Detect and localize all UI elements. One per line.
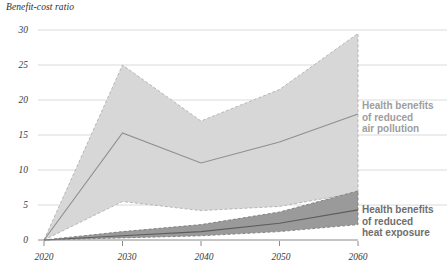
y-tick-label-20: 20 — [4, 95, 28, 105]
y-tick-label-5: 5 — [4, 200, 28, 210]
legend-label-heat-exposure: Health benefits of reduced heat exposure — [362, 204, 434, 239]
x-tick-label-2050: 2050 — [261, 252, 301, 262]
x-tick-label-2040: 2040 — [184, 252, 224, 262]
y-tick-label-30: 30 — [4, 25, 28, 35]
y-tick-label-10: 10 — [4, 165, 28, 175]
legend-label-air-pollution: Health benefits of reduced air pollution — [362, 100, 434, 135]
series-layer — [44, 34, 358, 241]
x-tick-label-2020: 2020 — [24, 252, 64, 262]
x-tick-label-2060: 2060 — [338, 252, 378, 262]
y-tick-label-0: 0 — [4, 235, 28, 245]
benefit-cost-ratio-chart: Benefit-cost ratio 30 25 20 15 10 5 0 20… — [0, 0, 447, 280]
x-tick-label-2030: 2030 — [107, 252, 147, 262]
axis-lines — [38, 240, 358, 246]
y-axis-title: Benefit-cost ratio — [6, 2, 74, 12]
y-tick-label-15: 15 — [4, 130, 28, 140]
y-tick-label-25: 25 — [4, 60, 28, 70]
